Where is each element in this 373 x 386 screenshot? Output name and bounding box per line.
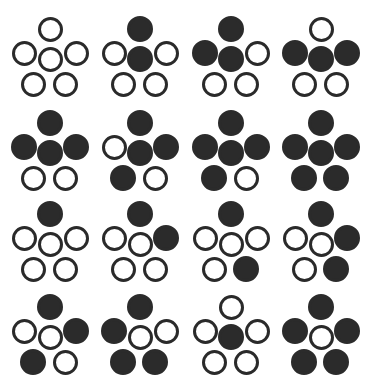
dot-pattern-16 (271, 278, 363, 370)
hollow-circle-icon (154, 41, 179, 66)
filled-circle-icon (153, 225, 179, 251)
filled-circle-icon (218, 110, 244, 136)
filled-circle-icon (308, 294, 334, 320)
hollow-circle-icon (38, 47, 63, 72)
filled-circle-icon (218, 201, 244, 227)
filled-circle-icon (127, 201, 153, 227)
hollow-circle-icon (202, 72, 227, 97)
filled-circle-icon (218, 16, 244, 42)
filled-circle-icon (153, 134, 179, 160)
dot-pattern-15 (181, 278, 273, 370)
filled-circle-icon (37, 140, 63, 166)
hollow-circle-icon (219, 232, 244, 257)
filled-circle-icon (282, 134, 308, 160)
hollow-circle-icon (38, 325, 63, 350)
filled-circle-icon (291, 349, 317, 375)
hollow-circle-icon (12, 41, 37, 66)
filled-circle-icon (63, 318, 89, 344)
dot-pattern-2 (90, 0, 182, 92)
filled-circle-icon (127, 294, 153, 320)
dot-pattern-10 (90, 185, 182, 277)
filled-circle-icon (218, 140, 244, 166)
filled-circle-icon (101, 318, 127, 344)
filled-circle-icon (110, 349, 136, 375)
filled-circle-icon (127, 16, 153, 42)
hollow-circle-icon (324, 72, 349, 97)
hollow-circle-icon (102, 226, 127, 251)
filled-circle-icon (308, 46, 334, 72)
dot-pattern-grid (0, 0, 373, 386)
filled-circle-icon (334, 134, 360, 160)
hollow-circle-icon (309, 17, 334, 42)
hollow-circle-icon (53, 72, 78, 97)
filled-circle-icon (282, 40, 308, 66)
filled-circle-icon (218, 46, 244, 72)
hollow-circle-icon (234, 72, 259, 97)
filled-circle-icon (282, 318, 308, 344)
filled-circle-icon (20, 349, 46, 375)
dot-pattern-14 (90, 278, 182, 370)
filled-circle-icon (308, 201, 334, 227)
hollow-circle-icon (245, 319, 270, 344)
hollow-circle-icon (38, 232, 63, 257)
hollow-circle-icon (143, 72, 168, 97)
filled-circle-icon (37, 294, 63, 320)
hollow-circle-icon (193, 226, 218, 251)
dot-pattern-6 (90, 94, 182, 186)
filled-circle-icon (308, 140, 334, 166)
filled-circle-icon (308, 110, 334, 136)
hollow-circle-icon (219, 295, 244, 320)
hollow-circle-icon (309, 325, 334, 350)
filled-circle-icon (192, 40, 218, 66)
dot-pattern-4 (271, 0, 363, 92)
dot-pattern-11 (181, 185, 273, 277)
filled-circle-icon (63, 134, 89, 160)
dot-pattern-8 (271, 94, 363, 186)
hollow-circle-icon (64, 226, 89, 251)
filled-circle-icon (11, 134, 37, 160)
filled-circle-icon (244, 134, 270, 160)
filled-circle-icon (334, 225, 360, 251)
dot-pattern-5 (0, 94, 92, 186)
filled-circle-icon (127, 46, 153, 72)
filled-circle-icon (334, 318, 360, 344)
hollow-circle-icon (292, 72, 317, 97)
filled-circle-icon (37, 201, 63, 227)
hollow-circle-icon (102, 41, 127, 66)
dot-pattern-12 (271, 185, 363, 277)
hollow-circle-icon (111, 72, 136, 97)
dot-pattern-9 (0, 185, 92, 277)
dot-pattern-1 (0, 0, 92, 92)
hollow-circle-icon (53, 350, 78, 375)
filled-circle-icon (192, 134, 218, 160)
hollow-circle-icon (102, 135, 127, 160)
filled-circle-icon (127, 110, 153, 136)
hollow-circle-icon (154, 319, 179, 344)
dot-pattern-3 (181, 0, 273, 92)
hollow-circle-icon (21, 72, 46, 97)
filled-circle-icon (323, 349, 349, 375)
hollow-circle-icon (128, 325, 153, 350)
hollow-circle-icon (12, 319, 37, 344)
hollow-circle-icon (64, 41, 89, 66)
filled-circle-icon (127, 140, 153, 166)
hollow-circle-icon (193, 319, 218, 344)
hollow-circle-icon (309, 232, 334, 257)
filled-circle-icon (334, 40, 360, 66)
hollow-circle-icon (38, 17, 63, 42)
hollow-circle-icon (245, 41, 270, 66)
hollow-circle-icon (12, 226, 37, 251)
hollow-circle-icon (245, 226, 270, 251)
hollow-circle-icon (234, 350, 259, 375)
hollow-circle-icon (283, 226, 308, 251)
dot-pattern-13 (0, 278, 92, 370)
dot-pattern-7 (181, 94, 273, 186)
hollow-circle-icon (128, 232, 153, 257)
filled-circle-icon (142, 349, 168, 375)
filled-circle-icon (37, 110, 63, 136)
hollow-circle-icon (202, 350, 227, 375)
filled-circle-icon (218, 324, 244, 350)
